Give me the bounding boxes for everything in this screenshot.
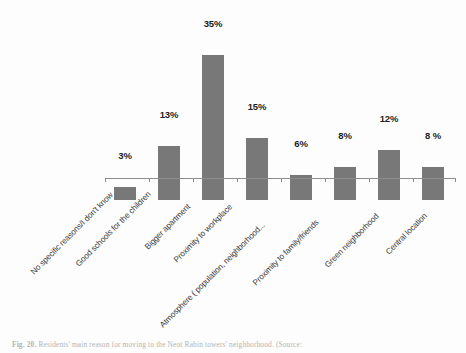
figure-container: 3% 13% 35% 15% 6% 8% 12% 8 % No specific… xyxy=(0,0,466,353)
figure-caption: Fig. 20. Residents' main reason for movi… xyxy=(12,340,460,349)
x-axis-label-4: Atmosphere ( population, neighborhood... xyxy=(158,221,267,330)
x-axis-category-labels: No specific reasons/I don't know Good sc… xyxy=(0,0,466,353)
x-axis-label-6: Green neighborhood xyxy=(323,212,381,270)
x-axis-label-7: Central location xyxy=(384,211,429,256)
x-axis-label-1: Good schools for the children xyxy=(74,190,153,269)
figure-caption-text: Residents' main reason for moving to the… xyxy=(38,340,302,349)
figure-number: Fig. 20. xyxy=(12,340,36,349)
